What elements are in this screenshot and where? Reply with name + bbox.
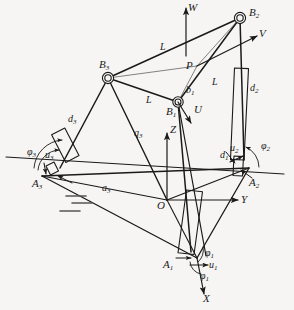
label-d1: d1	[220, 150, 229, 160]
vector-u3	[44, 163, 46, 174]
ground-hatching	[60, 196, 92, 211]
label-phi3: φ3	[27, 147, 36, 157]
label-u1: u1	[209, 260, 218, 270]
label-X: X	[203, 293, 210, 304]
joint-B3	[102, 72, 113, 83]
label-V: V	[259, 28, 266, 39]
label-Z: Z	[170, 124, 176, 135]
label-P: P	[186, 60, 193, 71]
label-u3: u3	[45, 150, 54, 160]
label-B3: B3	[99, 59, 109, 70]
label-L-top: L	[160, 42, 166, 52]
label-L-right: L	[212, 77, 218, 87]
label-L-mid: L	[146, 95, 152, 105]
q3-line	[108, 78, 167, 200]
joint-B2	[234, 12, 245, 23]
label-W: W	[188, 2, 197, 13]
label-phi1-upper: φ1	[205, 248, 214, 258]
label-b1: b1	[186, 85, 195, 95]
a2-joint-block	[233, 156, 244, 176]
axis-V	[197, 36, 257, 66]
label-A1: A1	[163, 259, 173, 270]
base-radii	[42, 168, 249, 258]
kinematic-diagram-figure: W V U Z Y X P O B1 B2 B3 A1 A2 A3 L L L …	[0, 0, 294, 310]
leg-1-link	[178, 102, 191, 252]
label-a3: a3	[102, 183, 111, 193]
label-q3: q3	[134, 128, 143, 138]
label-u2: u2	[230, 143, 239, 153]
label-U: U	[194, 104, 202, 115]
leg-2-link	[240, 18, 244, 160]
label-d2: d2	[250, 83, 259, 93]
a3-joint-block	[46, 162, 59, 175]
label-d3: d3	[68, 114, 77, 124]
platform-center-spokes	[108, 18, 240, 102]
label-phi1-lower: φ1	[200, 271, 209, 281]
label-Y: Y	[241, 194, 247, 205]
label-A2: A2	[249, 177, 259, 188]
label-A3: A3	[32, 178, 42, 189]
leg-1-secondary-edge	[178, 102, 206, 256]
platform-triangle	[108, 18, 240, 102]
label-phi2: φ2	[261, 141, 270, 151]
angle-arc-phi2	[246, 147, 259, 167]
label-O: O	[157, 200, 165, 211]
label-B2: B2	[249, 7, 259, 18]
label-B1: B1	[166, 106, 176, 117]
